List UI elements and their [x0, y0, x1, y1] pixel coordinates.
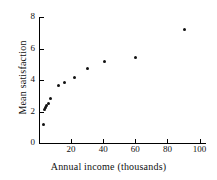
data-point	[183, 28, 186, 31]
data-point	[49, 97, 52, 100]
data-point	[47, 102, 50, 105]
x-tick-mark	[167, 139, 168, 143]
x-tick-label: 100	[188, 144, 212, 154]
x-tick-mark	[103, 139, 104, 143]
data-point	[63, 81, 66, 84]
y-tick-mark	[40, 49, 44, 50]
data-point	[73, 76, 76, 79]
y-tick-mark	[40, 17, 44, 18]
y-tick-mark	[40, 112, 44, 113]
data-point	[134, 56, 137, 59]
x-tick-label: 80	[155, 144, 179, 154]
y-tick-mark	[40, 143, 44, 144]
data-point	[103, 60, 106, 63]
x-tick-label: 20	[59, 144, 83, 154]
data-point	[86, 67, 89, 70]
x-tick-mark	[71, 139, 72, 143]
x-tick-mark	[200, 139, 201, 143]
x-tick-label: 40	[91, 144, 115, 154]
x-tick-mark	[135, 139, 136, 143]
y-tick-mark	[40, 80, 44, 81]
x-axis-title: Annual income (thousands)	[0, 161, 217, 172]
data-point	[57, 84, 60, 87]
x-tick-label: 60	[123, 144, 147, 154]
data-point	[42, 123, 45, 126]
scatter-plot-figure: 02468 20406080100 Annual income (thousan…	[0, 0, 217, 180]
y-axis-title: Mean satisfaction	[17, 13, 28, 143]
